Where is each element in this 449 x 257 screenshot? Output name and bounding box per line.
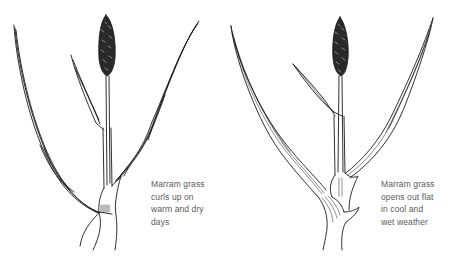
caption-line: Marram grass — [151, 178, 205, 191]
caption-flat: Marram grass opens out flat in cool and … — [381, 178, 435, 228]
seed-head-icon — [333, 17, 348, 76]
caption-curled: Marram grass curls up on warm and dry da… — [151, 178, 205, 228]
panel-flat-grass: Marram grass opens out flat in cool and … — [224, 0, 449, 257]
caption-line: wet weather — [381, 216, 435, 229]
caption-line: in cool and — [381, 203, 435, 216]
caption-line: curls up on — [151, 191, 205, 204]
seed-head-icon — [99, 15, 115, 76]
caption-line: Marram grass — [381, 178, 435, 191]
caption-line: days — [151, 216, 205, 229]
panel-curled-grass: Marram grass curls up on warm and dry da… — [0, 0, 225, 257]
caption-line: opens out flat — [381, 191, 435, 204]
caption-line: warm and dry — [151, 203, 205, 216]
